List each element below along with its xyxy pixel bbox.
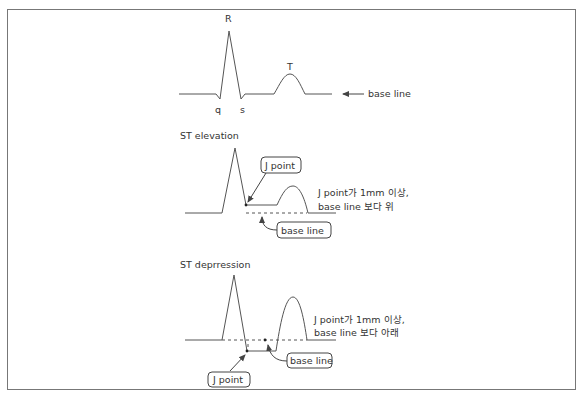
st-depression-section: ST deprression base line J point J point… xyxy=(180,259,405,387)
normal-ecg-section: R T q s base line xyxy=(179,13,411,115)
j-point-marker xyxy=(246,350,249,353)
st-elevation-desc-2: base line 보다 위 xyxy=(318,201,394,212)
baseline-label: base line xyxy=(368,88,411,99)
j-point-label: J point xyxy=(264,160,295,171)
normal-ecg-trace xyxy=(179,31,332,99)
q-wave-label: q xyxy=(215,104,221,115)
st-elevation-section: ST elevation J point base line J point가 … xyxy=(180,130,409,238)
st-depression-desc-1: J point가 1mm 이상, xyxy=(313,314,405,325)
baseline-marker xyxy=(264,339,267,342)
st-depression-title: ST deprression xyxy=(180,259,250,270)
r-wave-label: R xyxy=(225,13,232,24)
j-point-label: J point xyxy=(212,374,243,385)
st-elevation-title: ST elevation xyxy=(180,130,239,141)
j-point-arrow-icon xyxy=(248,173,266,202)
baseline-arrow-icon xyxy=(268,345,287,361)
baseline-arrow-icon xyxy=(262,217,277,230)
st-depression-desc-2: base line 보다 아래 xyxy=(314,327,399,338)
st-elevation-desc-1: J point가 1mm 이상, xyxy=(317,187,409,198)
baseline-callout-label: base line xyxy=(281,225,324,236)
j-point-marker xyxy=(245,204,248,207)
s-wave-label: s xyxy=(240,104,245,115)
t-wave-label: T xyxy=(286,61,293,72)
j-point-arrow-icon xyxy=(230,355,245,371)
baseline-callout-label: base line xyxy=(290,355,333,366)
ecg-diagram: R T q s base line ST elevation J point b… xyxy=(0,0,583,395)
